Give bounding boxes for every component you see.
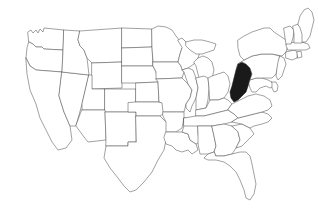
- state-CT[interactable]: [286, 50, 298, 60]
- state-NE[interactable]: [122, 66, 158, 83]
- state-SD[interactable]: [122, 47, 153, 66]
- state-ND[interactable]: [122, 28, 152, 48]
- state-IA[interactable]: [153, 62, 184, 79]
- us-map-figure: [0, 0, 318, 219]
- state-FL[interactable]: [204, 152, 256, 200]
- state-DE[interactable]: [272, 82, 278, 92]
- state-VT[interactable]: [284, 26, 294, 44]
- state-OH[interactable]: [208, 72, 230, 100]
- state-NM[interactable]: [105, 112, 136, 146]
- state-AR[interactable]: [163, 112, 184, 132]
- state-WY[interactable]: [92, 62, 122, 89]
- state-IN[interactable]: [196, 76, 209, 110]
- state-KS[interactable]: [136, 82, 159, 102]
- state-RI[interactable]: [297, 51, 302, 58]
- us-states-map[interactable]: [0, 0, 318, 219]
- state-MD[interactable]: [249, 78, 274, 92]
- state-AZ[interactable]: [76, 110, 106, 142]
